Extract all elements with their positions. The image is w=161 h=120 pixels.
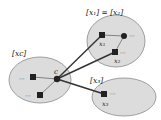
- class-x1x2-label: [x₁] = [x₂]: [86, 8, 123, 17]
- class-x3-label: [x₃]: [90, 76, 103, 85]
- node-left-square: [30, 74, 36, 80]
- node-x2-label: x₂: [114, 57, 121, 65]
- node-bottom-square: [37, 92, 43, 98]
- class-xc-label: [xc]: [12, 49, 26, 58]
- node-c-label: c: [54, 68, 58, 76]
- ellipsis-circle: ···: [129, 32, 135, 39]
- node-c: [54, 76, 60, 82]
- ellipsis-left: ···: [19, 75, 25, 82]
- node-x3-label: x₃: [102, 100, 109, 108]
- node-x1: [99, 32, 105, 38]
- ellipsis-bottom: ···: [25, 92, 31, 99]
- node-x1x2-circle: [121, 33, 127, 39]
- ellipsis-x2: ···: [120, 49, 126, 56]
- equivalence-class-diagram: [x₁] = [x₂] [xc] [x₃] c x₁ x₂ x₃ ··· ···…: [0, 0, 161, 120]
- node-x2: [112, 49, 118, 55]
- node-x3: [101, 91, 107, 97]
- ellipsis-x3: ···: [110, 90, 116, 97]
- node-x1-label: x₁: [99, 40, 105, 48]
